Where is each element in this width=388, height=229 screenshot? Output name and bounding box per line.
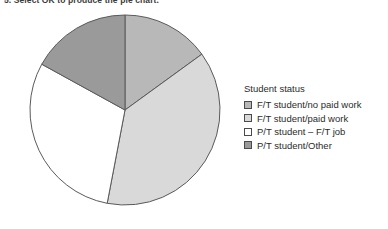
legend-item-label: P/T student – F/T job bbox=[257, 126, 345, 137]
legend-item-label: P/T student/Other bbox=[257, 140, 332, 151]
pie-chart-svg bbox=[0, 0, 240, 229]
legend-item: F/T student/no paid work bbox=[244, 98, 386, 111]
legend-item-label: F/T student/paid work bbox=[257, 113, 348, 124]
legend-item: P/T student/Other bbox=[244, 139, 386, 152]
pie-chart-area bbox=[0, 0, 240, 229]
legend-swatch-icon bbox=[244, 114, 252, 122]
legend-item-label: F/T student/no paid work bbox=[257, 99, 361, 110]
legend-title: Student status bbox=[244, 83, 386, 94]
pie-slices bbox=[30, 15, 220, 205]
pie-chart-output: 5. Select OK to produce the pie chart. S… bbox=[0, 0, 388, 229]
legend-swatch-icon bbox=[244, 128, 252, 136]
legend-item: P/T student – F/T job bbox=[244, 125, 386, 138]
legend-item: F/T student/paid work bbox=[244, 112, 386, 125]
legend: Student status F/T student/no paid work … bbox=[244, 83, 386, 152]
legend-swatch-icon bbox=[244, 101, 252, 109]
legend-swatch-icon bbox=[244, 141, 252, 149]
